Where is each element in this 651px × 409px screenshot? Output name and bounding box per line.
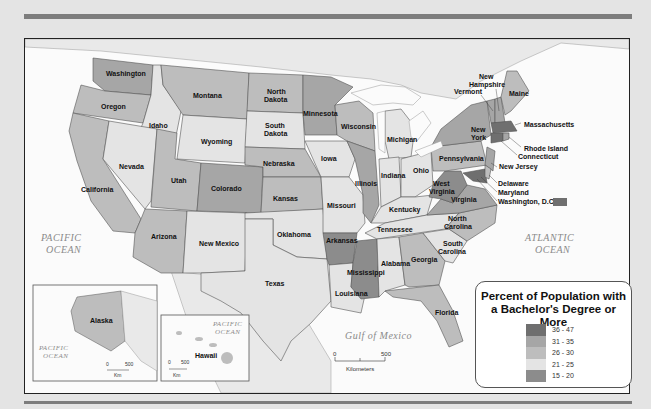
legend-label: 15 - 20 bbox=[552, 372, 574, 379]
svg-text:Wisconsin: Wisconsin bbox=[341, 123, 376, 130]
svg-text:Tennessee: Tennessee bbox=[377, 226, 413, 233]
svg-text:South: South bbox=[443, 240, 463, 247]
svg-text:Oregon: Oregon bbox=[101, 103, 126, 111]
legend-label: 36 - 47 bbox=[552, 326, 574, 333]
svg-text:York: York bbox=[471, 134, 486, 141]
legend-swatch bbox=[526, 359, 546, 371]
svg-text:0: 0 bbox=[106, 361, 109, 367]
gulf-label: Gulf of Mexico bbox=[345, 330, 412, 341]
svg-text:PACIFIC: PACIFIC bbox=[38, 344, 68, 352]
svg-text:Washington: Washington bbox=[106, 70, 146, 78]
svg-text:Dakota: Dakota bbox=[264, 96, 287, 103]
svg-text:500: 500 bbox=[125, 361, 134, 367]
svg-text:Virginia: Virginia bbox=[429, 188, 455, 196]
svg-text:Km: Km bbox=[173, 372, 181, 378]
svg-text:Colorado: Colorado bbox=[211, 185, 242, 192]
legend-row: 31 - 35 bbox=[526, 336, 574, 348]
state-rhode-island bbox=[503, 133, 509, 141]
legend-swatch bbox=[526, 347, 546, 359]
svg-text:Hampshire: Hampshire bbox=[469, 81, 505, 89]
svg-text:Nebraska: Nebraska bbox=[263, 160, 295, 167]
atlantic-label: ATLANTIC bbox=[524, 232, 574, 243]
scale-max: 500 bbox=[381, 351, 392, 357]
svg-text:Hawaii: Hawaii bbox=[195, 352, 217, 359]
svg-text:Florida: Florida bbox=[435, 309, 458, 316]
legend-title-line-1: Percent of Population with bbox=[476, 290, 631, 303]
svg-text:New Jersey: New Jersey bbox=[499, 163, 538, 171]
svg-text:Carolina: Carolina bbox=[444, 223, 472, 230]
svg-text:0: 0 bbox=[168, 359, 171, 365]
svg-text:South: South bbox=[265, 122, 285, 129]
svg-text:Oklahoma: Oklahoma bbox=[277, 231, 311, 238]
svg-text:Vermont: Vermont bbox=[454, 88, 483, 95]
svg-text:500: 500 bbox=[181, 359, 190, 365]
svg-text:Georgia: Georgia bbox=[411, 256, 438, 264]
dc-swatch bbox=[553, 198, 567, 206]
svg-text:Montana: Montana bbox=[193, 92, 222, 99]
scale-unit: Kilometers bbox=[346, 366, 374, 372]
svg-text:OCEAN: OCEAN bbox=[43, 352, 68, 360]
svg-text:Washington, D.C.: Washington, D.C. bbox=[498, 198, 556, 206]
legend: Percent of Population with a Bachelor's … bbox=[475, 281, 632, 388]
scale-zero: 0 bbox=[333, 351, 337, 357]
svg-text:Wyoming: Wyoming bbox=[201, 138, 232, 146]
svg-text:Alaska: Alaska bbox=[90, 317, 113, 324]
svg-text:Maine: Maine bbox=[509, 90, 529, 97]
svg-text:Connecticut: Connecticut bbox=[518, 153, 559, 160]
svg-text:Km: Km bbox=[114, 372, 122, 378]
state-connecticut bbox=[491, 133, 503, 143]
svg-text:Delaware: Delaware bbox=[498, 180, 529, 187]
svg-text:Indiana: Indiana bbox=[381, 172, 406, 179]
svg-text:West: West bbox=[433, 180, 450, 187]
legend-row: 36 - 47 bbox=[526, 324, 574, 336]
hawaii-inset: Hawaii PACIFIC OCEAN 0 500 Km bbox=[161, 315, 249, 381]
svg-text:Virginia: Virginia bbox=[451, 196, 477, 204]
svg-text:Pennsylvania: Pennsylvania bbox=[439, 155, 484, 163]
state-maryland bbox=[463, 169, 487, 183]
svg-text:New: New bbox=[479, 73, 494, 80]
svg-text:Nevada: Nevada bbox=[119, 163, 144, 170]
svg-text:Missouri: Missouri bbox=[327, 202, 356, 209]
legend-row: 21 - 25 bbox=[526, 359, 574, 371]
legend-classes: 36 - 47 31 - 35 26 - 30 21 - 25 15 - 20 bbox=[526, 324, 574, 382]
state-massachusetts bbox=[491, 121, 517, 133]
top-rule bbox=[24, 14, 632, 19]
legend-swatch bbox=[526, 336, 546, 348]
legend-row: 26 - 30 bbox=[526, 347, 574, 359]
legend-label: 31 - 35 bbox=[552, 338, 574, 345]
svg-text:Louisiana: Louisiana bbox=[335, 290, 368, 297]
scale-bar bbox=[335, 357, 385, 361]
svg-text:Arkansas: Arkansas bbox=[326, 237, 358, 244]
svg-text:Alabama: Alabama bbox=[381, 260, 410, 267]
svg-text:New Mexico: New Mexico bbox=[199, 240, 239, 247]
atlantic-label-2: OCEAN bbox=[535, 244, 571, 255]
lake-michigan bbox=[377, 111, 385, 153]
svg-text:PACIFIC: PACIFIC bbox=[212, 320, 242, 328]
legend-label: 26 - 30 bbox=[552, 349, 574, 356]
state-arizona bbox=[133, 209, 187, 273]
svg-text:Maryland: Maryland bbox=[498, 189, 529, 197]
legend-swatch bbox=[526, 324, 546, 336]
svg-text:Mississippi: Mississippi bbox=[347, 269, 385, 277]
svg-text:Minnesota: Minnesota bbox=[303, 110, 338, 117]
svg-text:North: North bbox=[267, 88, 286, 95]
svg-text:Kentucky: Kentucky bbox=[389, 206, 421, 214]
svg-text:OCEAN: OCEAN bbox=[215, 328, 240, 336]
svg-text:Illinois: Illinois bbox=[355, 180, 377, 187]
svg-text:Utah: Utah bbox=[171, 177, 187, 184]
svg-text:Idaho: Idaho bbox=[149, 122, 168, 129]
legend-row: 15 - 20 bbox=[526, 370, 574, 382]
svg-text:Massachusetts: Massachusetts bbox=[524, 121, 574, 128]
svg-text:Ohio: Ohio bbox=[413, 167, 429, 174]
legend-swatch bbox=[526, 370, 546, 382]
legend-label: 21 - 25 bbox=[552, 361, 574, 368]
bottom-rule bbox=[24, 401, 632, 404]
svg-text:North: North bbox=[448, 215, 467, 222]
alaska-inset: Alaska PACIFIC OCEAN 0 500 Km bbox=[33, 285, 157, 381]
pacific-label-2: OCEAN bbox=[46, 244, 82, 255]
svg-text:Iowa: Iowa bbox=[321, 155, 337, 162]
svg-text:Arizona: Arizona bbox=[151, 233, 177, 240]
svg-text:Dakota: Dakota bbox=[264, 130, 287, 137]
svg-text:Michigan: Michigan bbox=[387, 136, 417, 144]
svg-text:New: New bbox=[471, 126, 486, 133]
